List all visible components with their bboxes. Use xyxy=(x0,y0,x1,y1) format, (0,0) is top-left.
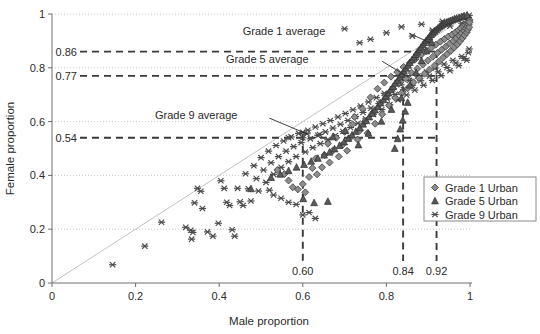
marker-x-asterisk xyxy=(215,221,222,226)
x-axis-tick-label: 0.6 xyxy=(295,290,310,302)
y-axis-tick-label: 0.6 xyxy=(30,116,45,128)
marker-x-asterisk xyxy=(197,189,204,194)
marker-x-asterisk xyxy=(221,186,228,191)
reference-line-label-0.54: 0.54 xyxy=(56,132,77,144)
marker-x-asterisk xyxy=(285,159,292,164)
chart-canvas: 00.20.40.60.8100.20.40.60.81 0.860.770.5… xyxy=(0,0,540,334)
x-axis-title: Male proportion xyxy=(229,315,309,327)
marker-x-asterisk xyxy=(317,141,324,146)
marker-x-asterisk xyxy=(455,63,462,68)
marker-x-asterisk xyxy=(239,203,246,208)
marker-x-asterisk xyxy=(277,196,284,201)
marker-x-asterisk xyxy=(312,216,319,221)
marker-diamond xyxy=(319,164,326,171)
marker-triangle xyxy=(324,198,331,205)
annotation-leader-line xyxy=(269,118,308,134)
marker-x-asterisk xyxy=(334,114,341,119)
reference-line-label-0.92: 0.92 xyxy=(426,265,447,277)
marker-x-asterisk xyxy=(299,212,306,217)
marker-x-asterisk xyxy=(272,143,279,148)
marker-diamond xyxy=(335,153,342,160)
marker-x-asterisk xyxy=(265,149,272,154)
marker-diamond xyxy=(374,85,381,92)
marker-x-asterisk xyxy=(290,144,297,149)
marker-x-asterisk xyxy=(435,69,442,74)
marker-x-asterisk xyxy=(182,225,189,230)
legend-item-2[interactable]: Grade 5 Urban xyxy=(432,195,518,207)
marker-triangle xyxy=(355,141,362,148)
scatter-chart-figure: 00.20.40.60.8100.20.40.60.81 0.860.770.5… xyxy=(0,0,540,334)
marker-x-asterisk xyxy=(398,24,405,29)
marker-x-asterisk xyxy=(446,68,453,73)
marker-triangle xyxy=(404,99,411,106)
annotation-grade-1-average: Grade 1 average xyxy=(243,25,326,37)
y-axis-tick-label: 0.2 xyxy=(30,223,45,235)
reference-line-label-0.60: 0.60 xyxy=(292,265,313,277)
marker-triangle xyxy=(378,118,385,125)
marker-x-asterisk xyxy=(285,200,292,205)
legend[interactable]: Grade 1 UrbanGrade 5 UrbanGrade 9 Urban xyxy=(424,177,536,221)
marker-triangle xyxy=(391,145,398,152)
marker-triangle xyxy=(311,199,318,206)
marker-x-asterisk xyxy=(209,234,216,239)
x-axis-tick-label: 1 xyxy=(467,290,473,302)
legend-item-3[interactable]: Grade 9 Urban xyxy=(431,209,517,221)
marker-x-asterisk xyxy=(275,154,282,159)
marker-x-asterisk xyxy=(250,163,257,168)
x-axis-tick-label: 0.2 xyxy=(128,290,143,302)
marker-x-asterisk xyxy=(247,198,254,203)
marker-x-asterisk xyxy=(231,234,238,239)
x-axis-tick-label: 0.8 xyxy=(379,290,394,302)
marker-x-asterisk xyxy=(188,236,195,241)
marker-x-asterisk xyxy=(260,167,267,172)
marker-x-asterisk xyxy=(255,188,262,193)
marker-x-asterisk xyxy=(293,202,300,207)
marker-x-asterisk xyxy=(267,160,274,165)
legend-label-1: Grade 1 Urban xyxy=(445,182,518,194)
reference-line-label-0.86: 0.86 xyxy=(56,46,77,58)
marker-x-asterisk xyxy=(223,200,230,205)
marker-x-asterisk xyxy=(418,22,425,27)
marker-x-asterisk xyxy=(466,46,473,51)
marker-x-asterisk xyxy=(329,125,336,130)
marker-x-asterisk xyxy=(298,140,305,145)
legend-label-3: Grade 9 Urban xyxy=(445,209,518,221)
marker-diamond xyxy=(344,147,351,154)
legend-item-1[interactable]: Grade 1 Urban xyxy=(432,182,518,194)
reference-line-label-0.77: 0.77 xyxy=(56,70,77,82)
marker-diamond xyxy=(314,171,321,178)
annotation-grade-5-average: Grade 5 average xyxy=(226,53,309,65)
marker-diamond xyxy=(387,73,394,80)
marker-x-asterisk xyxy=(341,26,348,31)
marker-diamond xyxy=(299,181,306,188)
marker-x-asterisk xyxy=(342,111,349,116)
marker-triangle xyxy=(301,161,308,168)
y-axis-tick-label: 0.8 xyxy=(30,62,45,74)
marker-x-asterisk xyxy=(383,30,390,35)
marker-x-asterisk xyxy=(109,262,116,267)
marker-x-asterisk xyxy=(282,149,289,154)
annotations: Grade 1 averageGrade 5 averageGrade 9 av… xyxy=(155,25,430,134)
marker-diamond xyxy=(367,94,374,101)
y-axis-title: Female proportion xyxy=(4,102,16,195)
marker-x-asterisk xyxy=(242,171,249,176)
marker-x-asterisk xyxy=(266,188,273,193)
marker-x-asterisk xyxy=(191,200,198,205)
marker-diamond xyxy=(381,79,388,86)
marker-x-asterisk xyxy=(237,199,244,204)
marker-x-asterisk xyxy=(204,229,211,234)
x-axis-tick-label: 0.4 xyxy=(212,290,227,302)
marker-triangle xyxy=(285,167,292,174)
marker-x-asterisk xyxy=(229,227,236,232)
marker-x-asterisk xyxy=(302,149,309,154)
y-axis-tick-label: 1 xyxy=(39,8,45,20)
marker-x-asterisk xyxy=(337,122,344,127)
marker-x-asterisk xyxy=(199,206,206,211)
marker-diamond xyxy=(326,159,333,166)
marker-x-asterisk xyxy=(270,192,277,197)
marker-x-asterisk xyxy=(420,83,427,88)
marker-x-asterisk xyxy=(356,40,363,45)
marker-x-asterisk xyxy=(141,243,148,248)
gridlines xyxy=(52,14,472,229)
marker-x-asterisk xyxy=(309,145,316,150)
